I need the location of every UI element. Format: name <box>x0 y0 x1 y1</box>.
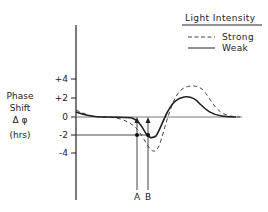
tick-label-zero: 0 <box>46 112 68 122</box>
legend-title: Light Intensity <box>185 13 256 23</box>
ylabel-line-3: Δ φ <box>2 115 38 125</box>
tick-label-minus4: -4 <box>46 148 68 158</box>
arrow-b-head <box>146 117 151 123</box>
dot-b <box>146 133 150 137</box>
ylabel-line-4: (hrs) <box>2 130 38 140</box>
legend-label-strong: Strong <box>222 32 254 42</box>
strong-curve <box>76 86 240 151</box>
legend-label-weak: Weak <box>222 43 248 53</box>
dot-a <box>135 133 139 137</box>
arrow-label-a: A <box>134 192 140 202</box>
arrow-label-b: B <box>145 192 151 202</box>
ylabel-line-2: Shift <box>2 103 38 113</box>
ylabel-line-1: Phase <box>2 91 38 101</box>
tick-label-plus2: +2 <box>46 93 68 103</box>
tick-label-plus4: +4 <box>46 74 68 84</box>
tick-label-minus2: -2 <box>46 130 68 140</box>
y-ticks <box>71 79 76 153</box>
